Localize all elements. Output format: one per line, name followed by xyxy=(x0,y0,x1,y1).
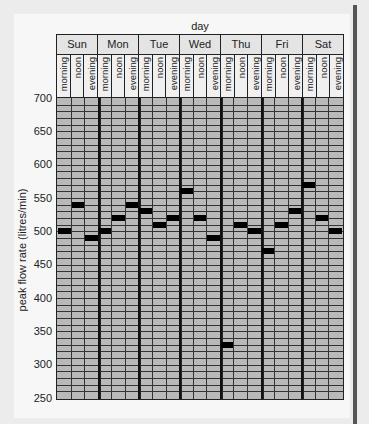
reading-marker-wed-morning xyxy=(180,188,193,194)
slot-header-wed-morning: morning xyxy=(180,55,194,97)
slot-header-mon-evening: evening xyxy=(125,55,139,97)
reading-marker-sun-evening xyxy=(85,235,98,241)
grid-column-line xyxy=(179,98,182,399)
slot-header-thu-noon: noon xyxy=(235,55,249,97)
slot-label: noon xyxy=(318,57,329,97)
grid-column-line xyxy=(315,98,316,399)
reading-marker-fri-noon xyxy=(275,222,288,228)
slot-label: noon xyxy=(72,57,83,97)
reading-marker-mon-noon xyxy=(112,215,125,221)
slot-header-thu-evening: evening xyxy=(248,55,262,97)
grid-column-line xyxy=(220,98,223,399)
day-header-fri: Fri xyxy=(262,35,303,54)
slot-label: morning xyxy=(58,57,69,97)
slot-header-mon-morning: morning xyxy=(98,55,112,97)
y-axis-label: peak flow rate (litres/min) xyxy=(16,189,28,312)
reading-marker-tue-noon xyxy=(153,222,166,228)
grid-column-line xyxy=(328,98,329,399)
y-tick-label: 300 xyxy=(12,358,52,370)
y-tick-label: 350 xyxy=(12,325,52,337)
reading-marker-tue-morning xyxy=(139,208,152,214)
day-header-sun: Sun xyxy=(57,35,98,54)
grid-column-line xyxy=(233,98,234,399)
slot-label: noon xyxy=(154,57,165,97)
reading-marker-sat-noon xyxy=(316,215,329,221)
grid-column-line xyxy=(125,98,126,399)
grid-column-line xyxy=(84,98,85,399)
slot-label: evening xyxy=(290,57,301,97)
slot-header-fri-morning: morning xyxy=(262,55,276,97)
reading-marker-tue-evening xyxy=(167,215,180,221)
reading-marker-mon-evening xyxy=(126,202,139,208)
reading-marker-thu-evening xyxy=(248,228,261,234)
grid-column-line xyxy=(247,98,248,399)
page-edge-bar xyxy=(353,5,357,424)
slot-header-sat-noon: noon xyxy=(317,55,331,97)
slot-header-sun-noon: noon xyxy=(71,55,85,97)
slot-label: evening xyxy=(208,57,219,97)
slot-label: noon xyxy=(277,57,288,97)
chart-header: SunMonTueWedThuFriSat morningnoonevening… xyxy=(56,34,344,97)
grid-column-line xyxy=(206,98,207,399)
reading-marker-thu-morning xyxy=(221,342,234,348)
day-header-tue: Tue xyxy=(139,35,180,54)
y-tick-label: 700 xyxy=(12,92,52,104)
y-tick-label: 250 xyxy=(12,392,52,404)
reading-marker-sun-noon xyxy=(72,202,85,208)
reading-marker-sat-morning xyxy=(302,182,315,188)
slot-header-tue-noon: noon xyxy=(153,55,167,97)
slot-header-tue-evening: evening xyxy=(166,55,180,97)
grid-column-line xyxy=(274,98,275,399)
slot-header-mon-noon: noon xyxy=(112,55,126,97)
reading-marker-wed-evening xyxy=(207,235,220,241)
reading-marker-thu-noon xyxy=(234,222,247,228)
day-header-wed: Wed xyxy=(180,35,221,54)
slot-label: noon xyxy=(236,57,247,97)
slot-header-tue-morning: morning xyxy=(139,55,153,97)
slot-header-sun-evening: evening xyxy=(84,55,98,97)
reading-marker-wed-noon xyxy=(194,215,207,221)
slot-header-fri-noon: noon xyxy=(276,55,290,97)
grid-column-line xyxy=(288,98,289,399)
grid-column-line xyxy=(98,98,101,399)
slot-label: morning xyxy=(263,57,274,97)
reading-marker-sat-evening xyxy=(329,228,342,234)
slot-header-fri-evening: evening xyxy=(289,55,303,97)
slot-label: evening xyxy=(126,57,137,97)
slot-label: morning xyxy=(140,57,151,97)
grid-column-line xyxy=(138,98,141,399)
y-tick-label: 600 xyxy=(12,158,52,170)
slot-label: noon xyxy=(113,57,124,97)
reading-marker-sun-morning xyxy=(58,228,71,234)
slot-label: morning xyxy=(222,57,233,97)
slot-header-wed-noon: noon xyxy=(194,55,208,97)
slot-label: noon xyxy=(195,57,206,97)
slot-label: morning xyxy=(181,57,192,97)
grid-column-line xyxy=(71,98,72,399)
grid-column-line xyxy=(111,98,112,399)
plot-area xyxy=(56,97,344,400)
reading-marker-fri-morning xyxy=(262,248,275,254)
slot-header-row: morningnooneveningmorningnooneveningmorn… xyxy=(56,54,344,97)
slot-label: evening xyxy=(167,57,178,97)
reading-marker-fri-evening xyxy=(289,208,302,214)
slot-label: morning xyxy=(99,57,110,97)
day-header-row: SunMonTueWedThuFriSat xyxy=(56,34,344,54)
grid-column-line xyxy=(166,98,167,399)
slot-label: evening xyxy=(85,57,96,97)
chart-title: day xyxy=(56,20,344,32)
grid-column-line xyxy=(193,98,194,399)
slot-header-wed-evening: evening xyxy=(207,55,221,97)
grid-column-line xyxy=(152,98,153,399)
grid-column-line xyxy=(301,98,304,399)
slot-label: evening xyxy=(331,57,342,97)
reading-marker-mon-morning xyxy=(99,228,112,234)
slot-label: evening xyxy=(249,57,260,97)
y-tick-label: 650 xyxy=(12,125,52,137)
slot-header-sat-morning: morning xyxy=(303,55,317,97)
slot-header-sat-evening: evening xyxy=(330,55,343,97)
slot-header-sun-morning: morning xyxy=(57,55,71,97)
slot-label: morning xyxy=(304,57,315,97)
day-header-mon: Mon xyxy=(98,35,139,54)
day-header-thu: Thu xyxy=(221,35,262,54)
